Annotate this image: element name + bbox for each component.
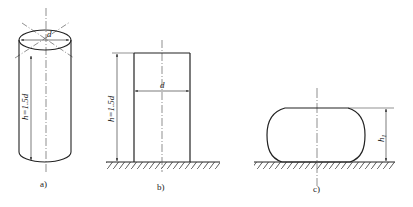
panel-b-billet (106, 40, 220, 172)
panel-b-diameter-label: d (160, 80, 165, 90)
panel-c-caption: c) (313, 184, 320, 194)
panel-c-upset-billet (254, 88, 395, 186)
panel-a-height-label: h=1.5d (20, 93, 30, 120)
svg-text:h1: h1 (376, 135, 387, 143)
panel-b-caption: b) (157, 182, 165, 192)
panel-a-diameter-label: d (47, 29, 52, 39)
upsetting-diagram: d h=1.5d a) d h=1.5d b) h1 c (0, 0, 413, 207)
panel-a-cylinder (15, 8, 74, 172)
panel-b-height-label: h=1.5d (106, 95, 116, 122)
panel-a-caption: a) (40, 179, 47, 189)
panel-c-height-label: h1 (376, 135, 387, 143)
